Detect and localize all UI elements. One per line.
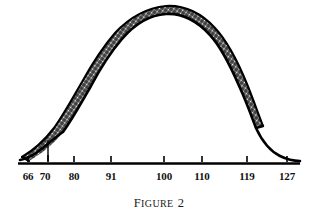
tick-label-127: 127 [279, 170, 296, 182]
caption-number: 2 [178, 196, 185, 210]
tick-label-110: 110 [194, 170, 210, 182]
chart-background [0, 0, 318, 222]
normal-distribution-chart: 66 70 80 91 100 110 119 127 FIGURE2 [0, 0, 318, 222]
tick-label-100: 100 [156, 170, 173, 182]
tick-label-80: 80 [69, 170, 80, 182]
caption-word: IGURE [141, 198, 174, 209]
caption-prefix: F [134, 196, 141, 210]
figure-caption: FIGURE2 [134, 196, 185, 210]
tick-label-66: 66 [23, 170, 34, 182]
tick-label-119: 119 [239, 170, 255, 182]
tick-label-91: 91 [106, 170, 117, 182]
tick-label-70: 70 [40, 170, 51, 182]
figure-container: 66 70 80 91 100 110 119 127 FIGURE2 [0, 0, 318, 222]
caption-line: FIGURE2 [134, 196, 185, 210]
